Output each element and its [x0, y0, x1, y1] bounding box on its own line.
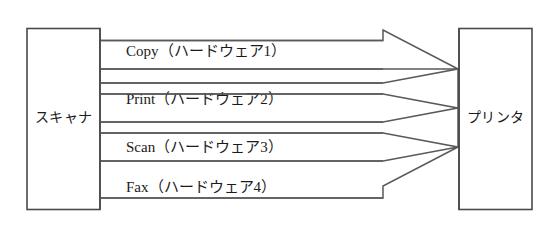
- flow-copy[interactable]: Copy（ハードウェア1）: [100, 30, 458, 69]
- node-printer-label: プリンタ: [467, 110, 525, 125]
- flow-copy-label: Copy（ハードウェア1）: [126, 43, 286, 59]
- diagram-canvas: スキャナ プリンタ Copy（ハードウェア1） Print（ハードウェア2） S…: [0, 0, 553, 226]
- flow-fax-label: Fax（ハードウェア4）: [126, 179, 276, 195]
- diagram-svg: スキャナ プリンタ Copy（ハードウェア1） Print（ハードウェア2） S…: [0, 0, 553, 226]
- flow-scan[interactable]: Scan（ハードウェア3）: [100, 108, 458, 155]
- node-scanner-label: スキャナ: [35, 110, 93, 125]
- flow-scan-label: Scan（ハードウェア3）: [126, 139, 283, 155]
- flow-print[interactable]: Print（ハードウェア2）: [100, 69, 458, 108]
